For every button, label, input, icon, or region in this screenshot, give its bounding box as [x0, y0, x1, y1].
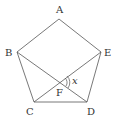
- angle-x-arc: [67, 76, 70, 88]
- angle-x-arc-inner: [65, 78, 67, 86]
- label-F: F: [56, 87, 63, 98]
- angle-label-x: x: [72, 75, 78, 86]
- label-B: B: [5, 47, 12, 58]
- pentagon-diagram: A B E C D F x: [0, 0, 118, 118]
- label-E: E: [104, 47, 111, 58]
- label-C: C: [26, 106, 34, 117]
- label-A: A: [55, 4, 64, 15]
- label-D: D: [87, 106, 95, 117]
